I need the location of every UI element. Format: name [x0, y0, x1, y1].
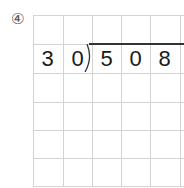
grid-line: [150, 15, 151, 187]
division-bracket-icon: [83, 44, 93, 72]
grid-line: [33, 130, 184, 131]
division-grid: [33, 15, 184, 187]
grid-line: [33, 73, 184, 74]
grid-line: [121, 15, 122, 187]
divisor-digit: 3: [33, 44, 62, 73]
grid-line: [180, 15, 181, 187]
dividend-digit: 5: [92, 44, 121, 73]
grid-line: [33, 186, 184, 187]
grid-line: [33, 102, 184, 103]
grid-line: [33, 158, 184, 159]
dividend-digit: 0: [121, 44, 150, 73]
grid-line: [33, 15, 34, 187]
grid-line: [63, 15, 64, 187]
dividend-digit: 8: [150, 44, 179, 73]
grid-line: [92, 15, 93, 187]
grid-line: [33, 15, 184, 16]
division-bar: [89, 43, 184, 45]
problem-number-label: ④: [11, 10, 24, 28]
